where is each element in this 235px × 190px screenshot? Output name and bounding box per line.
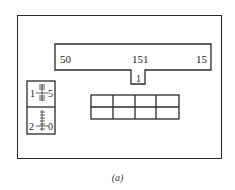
grid-table [91, 95, 179, 119]
upper-gauge-left-label: 1 [30, 88, 35, 99]
tab-label: 1 [136, 73, 141, 84]
upper-scale-icon [36, 84, 48, 101]
top-bar-right-label: 15 [196, 54, 207, 65]
lower-scale-icon [36, 110, 48, 131]
figure-caption: (a) [0, 172, 235, 183]
top-bar-left-label: 50 [60, 54, 71, 65]
top-bar-center-label: 151 [132, 54, 149, 65]
upper-gauge-right-label: 5 [48, 88, 53, 99]
lower-gauge-left-label: 2 [29, 121, 34, 132]
lower-gauge-right-label: 0 [48, 121, 53, 132]
diagram-lines [0, 0, 235, 190]
